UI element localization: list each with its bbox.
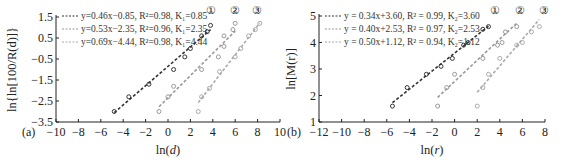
x-axis-label: ln(r) bbox=[421, 143, 444, 157]
data-point bbox=[157, 110, 161, 114]
x-tick-label: 4 bbox=[210, 125, 216, 139]
x-tick-label: 0 bbox=[452, 125, 458, 139]
y-tick-label: 2 bbox=[310, 89, 316, 103]
data-point bbox=[496, 43, 500, 47]
y-tick-label: 0.5 bbox=[38, 31, 53, 45]
y-tick-label: 5 bbox=[310, 9, 316, 23]
figure: −10−8−6−4−202468101.50.5−0.5−1.5−2.5−3.5… bbox=[0, 0, 566, 162]
legend-entry: y=0.53x−2.35, R²=0.96, K₁=2.35 bbox=[81, 24, 208, 34]
data-point bbox=[218, 70, 222, 74]
panel-label: (a) bbox=[22, 125, 35, 139]
data-point bbox=[233, 21, 237, 25]
y-tick-label: −2.5 bbox=[31, 94, 53, 108]
data-point bbox=[487, 72, 491, 76]
x-tick-label: −2 bbox=[139, 125, 152, 139]
data-point bbox=[172, 84, 176, 88]
y-tick-label: 4 bbox=[310, 36, 316, 50]
x-tick-label: −10 bbox=[332, 125, 351, 139]
x-tick-label: 0 bbox=[165, 125, 171, 139]
y-axis-label: ln{ln[100/R(d)]} bbox=[5, 27, 19, 112]
legend-entry: y = 0.50x+1.12, R² = 0.94, K₂=1.12 bbox=[344, 37, 480, 47]
data-point bbox=[231, 28, 235, 32]
x-tick-label: −8 bbox=[72, 125, 85, 139]
series-marker-label: ① bbox=[490, 4, 500, 16]
data-point bbox=[537, 25, 541, 29]
x-tick-label: 8 bbox=[542, 125, 548, 139]
legend-entry: y=0.69x−4.44, R²=0.98, K₁=4.44 bbox=[81, 37, 208, 47]
data-point bbox=[196, 110, 200, 114]
data-point bbox=[405, 86, 409, 90]
series-1: ①y = 0.34x+3.60, R² = 0.99, K₂=3.60 bbox=[325, 4, 500, 108]
y-tick-label: 1 bbox=[310, 115, 316, 129]
data-point bbox=[222, 34, 226, 38]
data-point bbox=[390, 104, 394, 108]
x-tick-label: 6 bbox=[232, 125, 238, 139]
y-tick-label: −0.5 bbox=[31, 52, 53, 66]
data-point bbox=[127, 95, 131, 99]
x-tick-label: 6 bbox=[519, 125, 525, 139]
data-point bbox=[453, 72, 457, 76]
series-1: ①y=0.46x−0.85, R²=0.98, K₁=0.85 bbox=[62, 4, 216, 114]
x-tick-label: −8 bbox=[358, 125, 371, 139]
series-marker-label: ① bbox=[206, 4, 216, 16]
legend-entry: y = 0.40x+2.53, R² = 0.97, K₂=2.53 bbox=[344, 24, 480, 34]
y-tick-label: 3 bbox=[310, 62, 316, 76]
x-tick-label: −6 bbox=[94, 125, 107, 139]
data-point bbox=[183, 55, 187, 59]
x-tick-label: −2 bbox=[426, 125, 439, 139]
y-axis-label: ln[M(r)] bbox=[284, 48, 298, 90]
data-point bbox=[450, 56, 454, 60]
x-axis-label: ln(d) bbox=[156, 143, 180, 157]
series-marker-label: ② bbox=[515, 4, 525, 16]
x-tick-label: 10 bbox=[274, 125, 286, 139]
data-point bbox=[209, 23, 213, 27]
data-point bbox=[529, 30, 533, 34]
x-tick-label: −6 bbox=[380, 125, 393, 139]
data-point bbox=[481, 56, 485, 60]
x-tick-label: 2 bbox=[187, 125, 193, 139]
x-tick-label: 8 bbox=[255, 125, 261, 139]
series-marker-label: ③ bbox=[539, 4, 549, 16]
data-point bbox=[439, 64, 443, 68]
data-point bbox=[498, 56, 502, 60]
data-point bbox=[172, 68, 176, 72]
x-tick-label: 4 bbox=[497, 125, 503, 139]
data-point bbox=[207, 86, 211, 90]
data-point bbox=[475, 104, 479, 108]
x-tick-label: −4 bbox=[403, 125, 416, 139]
data-point bbox=[520, 41, 524, 45]
chart-panel-b: −12−10−8−6−4−20246854321(b)ln(r)ln[M(r)]… bbox=[284, 4, 549, 157]
series-marker-label: ② bbox=[230, 4, 240, 16]
data-point bbox=[222, 44, 226, 48]
data-point bbox=[500, 41, 504, 45]
data-point bbox=[436, 104, 440, 108]
y-tick-label: 1.5 bbox=[38, 10, 53, 24]
data-point bbox=[515, 25, 519, 29]
data-point bbox=[200, 68, 204, 72]
legend-entry: y=0.46x−0.85, R²=0.98, K₁=0.85 bbox=[81, 11, 208, 21]
x-tick-label: −4 bbox=[117, 125, 130, 139]
legend-entry: y = 0.34x+3.60, R² = 0.99, K₂=3.60 bbox=[344, 11, 480, 21]
y-tick-label: −1.5 bbox=[31, 73, 53, 87]
chart-panel-a: −10−8−6−4−202468101.50.5−0.5−1.5−2.5−3.5… bbox=[5, 4, 286, 157]
panel-label: (b) bbox=[287, 125, 301, 139]
series-marker-label: ③ bbox=[252, 4, 262, 16]
x-tick-label: 2 bbox=[474, 125, 480, 139]
data-point bbox=[216, 55, 220, 59]
